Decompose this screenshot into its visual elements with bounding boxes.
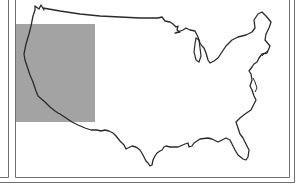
map-figure [0, 0, 302, 190]
map-canvas [0, 0, 302, 190]
left-panel-frame [0, 0, 9, 178]
chesapeake-bay [253, 78, 257, 92]
